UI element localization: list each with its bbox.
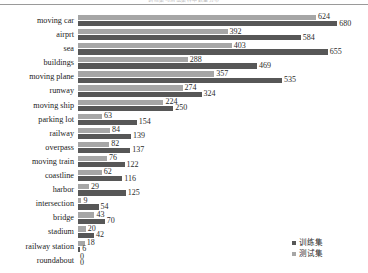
- bar-group: 76122: [78, 155, 368, 169]
- bar-train-wrap: 116: [78, 176, 368, 182]
- bar-test-wrap: 63: [78, 114, 368, 120]
- bar-value-label-train: 250: [175, 103, 187, 113]
- chart-title: 训练集与测试集样本数量分布: [0, 0, 368, 3]
- legend-swatch-test-icon: [292, 252, 296, 256]
- bar-test[interactable]: [78, 15, 316, 20]
- bar-train-wrap: 535: [78, 78, 368, 84]
- bar-value-label-train: 655: [330, 47, 342, 57]
- bar-train[interactable]: [78, 134, 131, 139]
- bar-train-wrap: 125: [78, 190, 368, 196]
- bar-test-wrap: 82: [78, 142, 368, 148]
- chart-row: parking lot63154: [0, 113, 368, 127]
- bar-group: 62116: [78, 169, 368, 183]
- legend-item-train[interactable]: 训练集: [292, 237, 362, 248]
- bar-test[interactable]: [78, 156, 107, 161]
- legend-item-test[interactable]: 测试集: [292, 248, 362, 259]
- bar-test[interactable]: [78, 71, 214, 76]
- bar-test-wrap: 392: [78, 29, 368, 35]
- category-label: moving ship: [0, 99, 74, 113]
- category-label: overpass: [0, 141, 74, 155]
- category-label: airprt: [0, 28, 74, 42]
- category-label: parking lot: [0, 113, 74, 127]
- bar-train[interactable]: [78, 176, 122, 181]
- bar-test[interactable]: [78, 85, 183, 90]
- chart-legend: 训练集 测试集: [292, 237, 362, 259]
- bar-group: 403655: [78, 42, 368, 56]
- bar-train[interactable]: [78, 162, 125, 167]
- chart-row: railway84139: [0, 127, 368, 141]
- bar-value-label-train: 0: [80, 258, 84, 268]
- chart-row: coastline62116: [0, 169, 368, 183]
- bar-value-label-train: 122: [127, 160, 139, 170]
- bar-group: 84139: [78, 127, 368, 141]
- bar-train-wrap: 680: [78, 21, 368, 27]
- bar-value-label-train: 42: [96, 230, 104, 240]
- bar-value-label-train: 70: [107, 216, 115, 226]
- chart-row: airprt392584: [0, 28, 368, 42]
- bar-test[interactable]: [78, 57, 188, 62]
- bar-value-label-train: 680: [339, 19, 351, 29]
- bar-test-wrap: 76: [78, 156, 368, 162]
- bar-train[interactable]: [78, 92, 202, 97]
- bar-group: 624680: [78, 14, 368, 28]
- bar-test-wrap: 403: [78, 43, 368, 49]
- bar-value-label-train: 139: [133, 131, 145, 141]
- bar-train[interactable]: [78, 120, 137, 125]
- bar-value-label-train: 324: [204, 89, 216, 99]
- bar-train[interactable]: [78, 35, 301, 40]
- bar-value-label-train: 125: [128, 188, 140, 198]
- bar-train-wrap: 154: [78, 120, 368, 126]
- legend-label-train: 训练集: [299, 237, 323, 248]
- chart-row: intersection954: [0, 197, 368, 211]
- bar-test[interactable]: [78, 128, 110, 133]
- bar-value-label-train: 154: [139, 117, 151, 127]
- bar-train-wrap: 0: [78, 261, 368, 267]
- bar-train[interactable]: [78, 148, 130, 153]
- bar-train[interactable]: [78, 49, 328, 54]
- top-divider: [0, 4, 368, 5]
- bar-test-wrap: 20: [78, 226, 368, 232]
- bar-test-wrap: 62: [78, 170, 368, 176]
- bar-train[interactable]: [78, 106, 173, 111]
- bar-chart: 训练集与测试集样本数量分布 moving car624680airprt3925…: [0, 0, 368, 273]
- bar-test[interactable]: [78, 198, 81, 203]
- bar-test-wrap: 274: [78, 85, 368, 91]
- category-label: railway: [0, 127, 74, 141]
- plot-area: moving car624680airprt392584sea403655bui…: [0, 14, 368, 260]
- chart-row: harbor29125: [0, 183, 368, 197]
- bar-train-wrap: 324: [78, 92, 368, 98]
- bar-group: 224250: [78, 99, 368, 113]
- bar-value-label-train: 584: [303, 33, 315, 43]
- bar-test[interactable]: [78, 114, 102, 119]
- bar-train[interactable]: [78, 78, 282, 83]
- bar-test[interactable]: [78, 226, 86, 231]
- chart-row: bridge4370: [0, 211, 368, 225]
- category-label: runway: [0, 84, 74, 98]
- legend-swatch-train-icon: [292, 241, 296, 245]
- bar-value-label-train: 116: [124, 174, 136, 184]
- bar-test[interactable]: [78, 142, 109, 147]
- bar-test[interactable]: [78, 170, 102, 175]
- bar-test-wrap: 624: [78, 15, 368, 21]
- chart-row: moving ship224250: [0, 99, 368, 113]
- bar-train-wrap: 250: [78, 106, 368, 112]
- chart-row: runway274324: [0, 84, 368, 98]
- bar-train-wrap: 655: [78, 49, 368, 55]
- bar-test-wrap: 288: [78, 57, 368, 63]
- bar-value-label-train: 535: [284, 75, 296, 85]
- bar-test[interactable]: [78, 29, 228, 34]
- bar-test[interactable]: [78, 43, 232, 48]
- bar-value-label-train: 469: [259, 61, 271, 71]
- bar-train-wrap: 54: [78, 204, 368, 210]
- bar-train[interactable]: [78, 63, 257, 68]
- category-label: railway station: [0, 240, 74, 254]
- bar-test[interactable]: [78, 212, 94, 217]
- bar-test[interactable]: [78, 184, 89, 189]
- category-label: roundabout: [0, 254, 74, 268]
- bar-train[interactable]: [78, 21, 337, 26]
- category-label: buildings: [0, 56, 74, 70]
- chart-row: moving train76122: [0, 155, 368, 169]
- bar-value-label-train: 137: [132, 145, 144, 155]
- category-label: moving train: [0, 155, 74, 169]
- bar-test[interactable]: [78, 100, 163, 105]
